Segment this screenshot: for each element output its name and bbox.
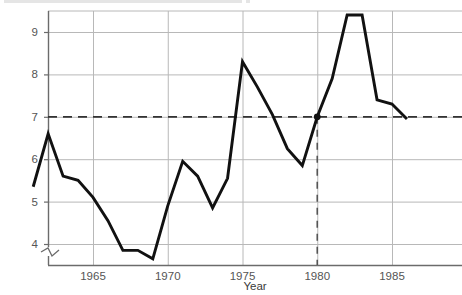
chart-canvas: 456789 19651970197519801985 Year xyxy=(0,0,462,295)
x-tick-label-1970: 1970 xyxy=(155,270,181,282)
x-tick-label-1980: 1980 xyxy=(304,270,330,282)
y-tick-label-6: 6 xyxy=(32,153,38,165)
y-tick-label-9: 9 xyxy=(32,26,38,38)
y-tick-label-5: 5 xyxy=(32,196,38,208)
x-tick-label-1985: 1985 xyxy=(379,270,405,282)
y-tick-label-4: 4 xyxy=(32,238,39,250)
y-tick-label-7: 7 xyxy=(32,111,38,123)
highlight-marker-1980 xyxy=(314,113,321,120)
clipped-top-title xyxy=(4,0,250,3)
line-chart: 456789 19651970197519801985 Year xyxy=(0,0,462,295)
x-tick-label-1965: 1965 xyxy=(80,270,106,282)
y-tick-label-8: 8 xyxy=(32,68,38,80)
x-axis-title: Year xyxy=(243,280,266,292)
